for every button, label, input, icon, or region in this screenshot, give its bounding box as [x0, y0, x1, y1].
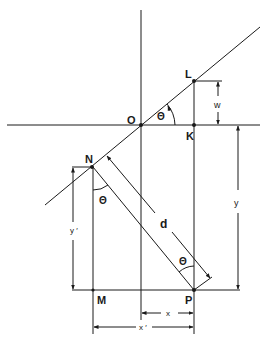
- label-w: w: [213, 100, 221, 110]
- label-P: P: [185, 294, 192, 306]
- label-M: M: [97, 294, 106, 306]
- inclined-line: [45, 27, 260, 205]
- label-y-prime: y ′: [70, 226, 78, 235]
- geometry-diagram: O L K N M P Θ Θ Θ w y y ′ d x x ′: [0, 0, 264, 339]
- label-K: K: [186, 130, 194, 142]
- point-P: [192, 288, 196, 292]
- d-dimension-lower: [172, 232, 210, 278]
- angle-arc-N: [93, 185, 108, 190]
- label-x: x: [166, 309, 170, 318]
- point-N: [90, 165, 94, 169]
- label-theta-N: Θ: [99, 195, 107, 206]
- d-end-tick: [194, 277, 212, 290]
- label-theta-P: Θ: [179, 256, 187, 267]
- point-L: [192, 79, 196, 83]
- point-K: [192, 123, 196, 127]
- label-y: y: [234, 198, 239, 208]
- point-O: [139, 123, 143, 127]
- label-x-prime: x ′: [139, 323, 147, 332]
- label-O: O: [127, 114, 136, 126]
- label-d: d: [160, 217, 167, 231]
- label-theta-O: Θ: [157, 111, 165, 122]
- d-dimension-upper: [107, 156, 155, 213]
- label-L: L: [185, 68, 192, 80]
- label-N: N: [85, 153, 93, 165]
- point-M: [91, 288, 94, 291]
